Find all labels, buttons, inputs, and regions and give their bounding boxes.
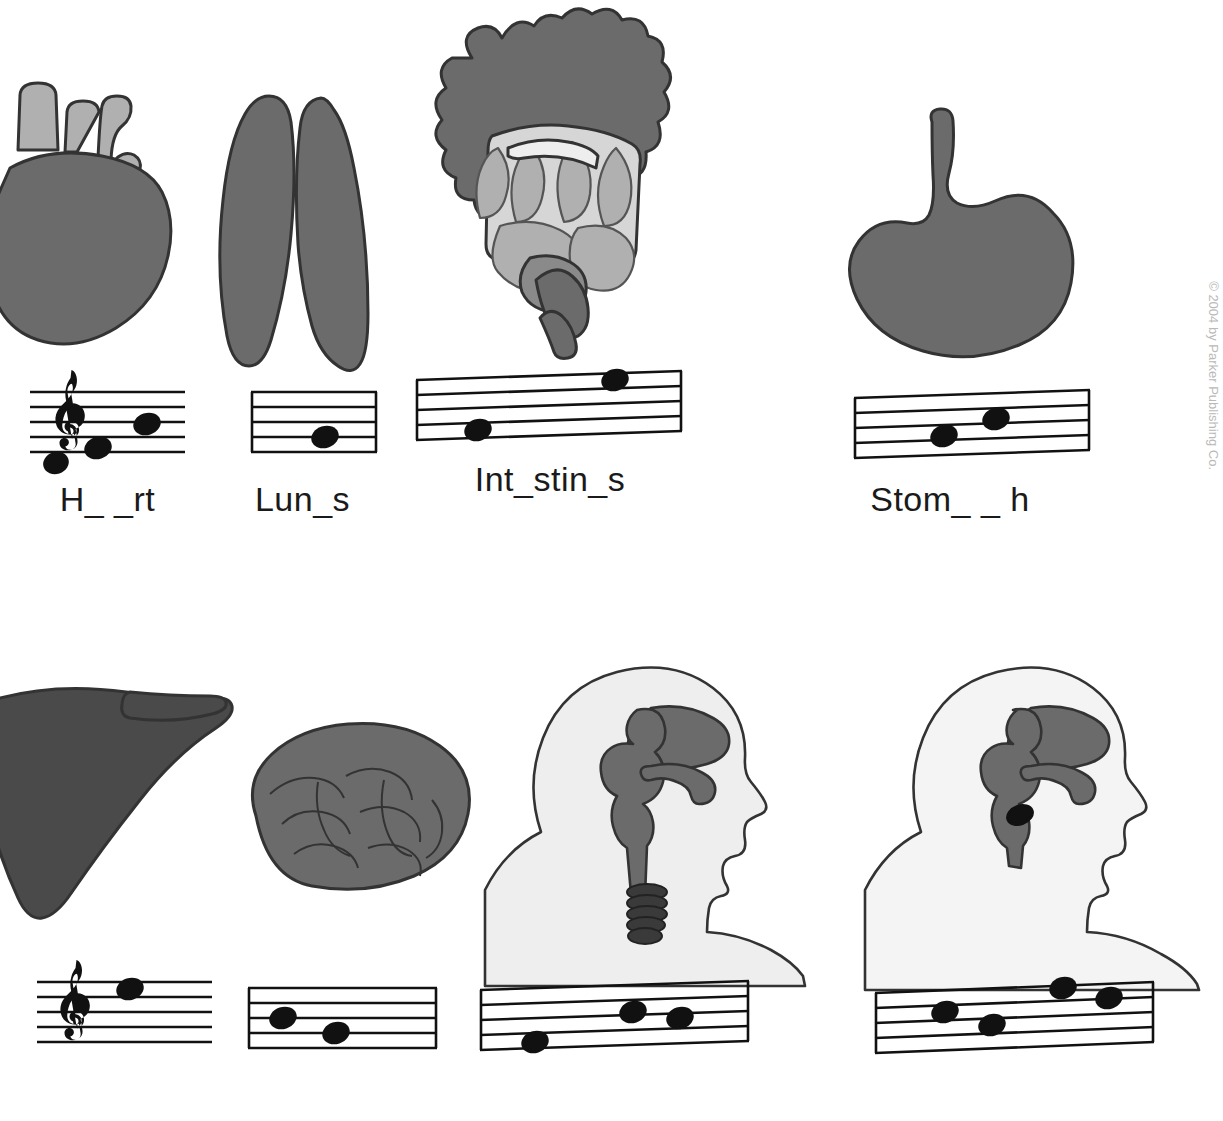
staff-intestines (410, 358, 690, 453)
lungs-organ-icon (203, 82, 403, 382)
esophagus-head-icon (455, 600, 785, 950)
item-heart: H_ _rt (0, 30, 215, 490)
note-heads (266, 1003, 352, 1048)
label-lungs: Lun_s (195, 480, 410, 519)
staff-liver (32, 960, 217, 1070)
stomach-organ-icon (808, 108, 1088, 348)
worksheet-page: H_ _rt (0, 0, 1223, 1121)
staff-esophagus (475, 970, 755, 1065)
heart-organ-icon (0, 40, 200, 380)
item-lungs: Lun_s (195, 30, 410, 490)
item-brain: _r_in (210, 600, 490, 1110)
note-heads (113, 974, 146, 1004)
item-esophagus: _soph_ _ us (455, 600, 785, 1110)
note-heads (308, 422, 341, 452)
note-heads (518, 997, 696, 1057)
staff-heart (25, 368, 190, 478)
item-intestines: Int_stin_s (400, 10, 700, 490)
staff-stomach (848, 378, 1098, 473)
intestines-organ-icon (420, 18, 690, 358)
brain-organ-icon (222, 720, 472, 920)
vocal-folds-head-icon (835, 600, 1175, 950)
item-vocal-folds: Vo_ _ l _ol_s (835, 600, 1175, 1110)
staff-vocal-folds (870, 965, 1160, 1065)
label-intestines: Int_stin_s (400, 460, 700, 499)
copyright-notice: © 2004 by Parker Publishing Co. (1206, 281, 1221, 470)
staff-lungs (247, 382, 382, 472)
label-stomach: Stom_ _ h (790, 480, 1110, 519)
staff-brain (243, 978, 443, 1068)
item-stomach: Stom_ _ h (790, 30, 1110, 490)
label-heart: H_ _rt (0, 480, 215, 519)
